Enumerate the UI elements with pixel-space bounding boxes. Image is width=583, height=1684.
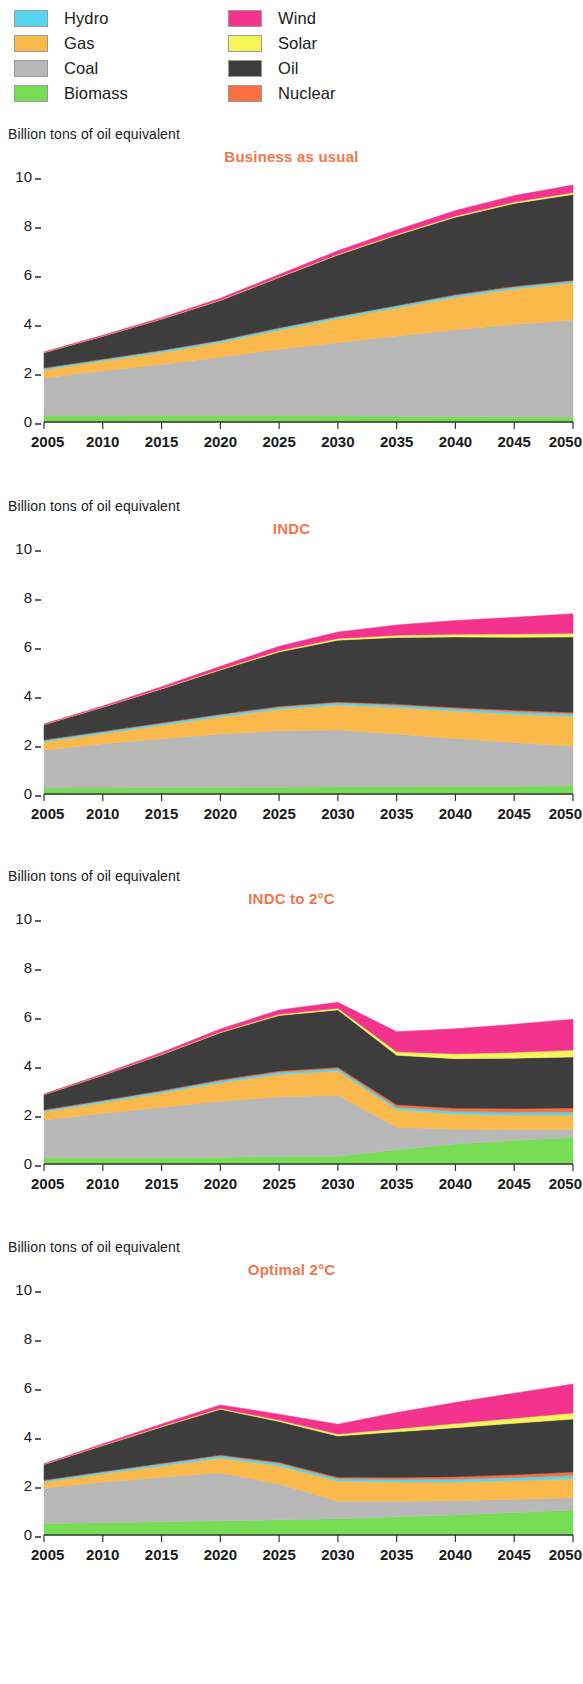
legend-item-coal[interactable]: Coal xyxy=(14,56,128,81)
x-tick-label-2050: 2050 xyxy=(549,433,582,450)
x-tick-label-2035: 2035 xyxy=(380,1546,413,1563)
legend-swatch-oil xyxy=(228,60,262,77)
y-tick-label-8: 8 xyxy=(24,1330,32,1347)
legend-swatch-solar xyxy=(228,35,262,52)
x-tick-label-2005: 2005 xyxy=(31,1546,64,1563)
chart-legend: HydroGasCoalBiomass WindSolarOilNuclear xyxy=(0,0,583,112)
legend-label-gas: Gas xyxy=(64,35,95,52)
panel-3: Billion tons of oil equivalent Optimal 2… xyxy=(0,1239,583,1584)
y-tick-label-0: 0 xyxy=(24,1526,32,1543)
x-tick-label-2035: 2035 xyxy=(380,805,413,822)
x-tick-label-2035: 2035 xyxy=(380,1175,413,1192)
legend-swatch-gas xyxy=(14,35,48,52)
panel-2: Billion tons of oil equivalent INDC to 2… xyxy=(0,868,583,1213)
legend-label-wind: Wind xyxy=(278,10,316,27)
x-tick-label-2015: 2015 xyxy=(145,805,178,822)
legend-label-nuclear: Nuclear xyxy=(278,85,336,102)
x-tick-label-2005: 2005 xyxy=(31,433,64,450)
legend-item-nuclear[interactable]: Nuclear xyxy=(228,81,336,106)
legend-item-wind[interactable]: Wind xyxy=(228,6,336,31)
legend-item-hydro[interactable]: Hydro xyxy=(14,6,128,31)
x-tick-label-2045: 2045 xyxy=(498,1175,531,1192)
legend-item-biomass[interactable]: Biomass xyxy=(14,81,128,106)
x-tick-label-2005: 2005 xyxy=(31,1175,64,1192)
panel-0: Billion tons of oil equivalent Business … xyxy=(0,126,583,471)
y-tick-label-0: 0 xyxy=(24,1155,32,1172)
y-tick-label-0: 0 xyxy=(24,413,32,430)
x-tick-label-2015: 2015 xyxy=(145,1175,178,1192)
y-tick-label-10: 10 xyxy=(15,168,32,185)
x-tick-label-2050: 2050 xyxy=(549,1546,582,1563)
x-tick-label-2030: 2030 xyxy=(321,805,354,822)
x-tick-label-2020: 2020 xyxy=(204,433,237,450)
x-tick-label-2020: 2020 xyxy=(204,1546,237,1563)
chart-svg-1: 0246810200520102015202020252030203520402… xyxy=(0,498,583,843)
y-tick-label-4: 4 xyxy=(24,315,32,332)
x-tick-label-2025: 2025 xyxy=(262,805,295,822)
y-tick-label-4: 4 xyxy=(24,1428,32,1445)
y-tick-label-8: 8 xyxy=(24,217,32,234)
x-tick-label-2040: 2040 xyxy=(439,805,472,822)
legend-item-gas[interactable]: Gas xyxy=(14,31,128,56)
x-tick-label-2030: 2030 xyxy=(321,433,354,450)
legend-swatch-nuclear xyxy=(228,85,262,102)
y-tick-label-10: 10 xyxy=(15,1281,32,1298)
legend-item-oil[interactable]: Oil xyxy=(228,56,336,81)
x-tick-label-2040: 2040 xyxy=(439,433,472,450)
y-tick-label-8: 8 xyxy=(24,589,32,606)
legend-label-hydro: Hydro xyxy=(64,10,109,27)
legend-swatch-biomass xyxy=(14,85,48,102)
x-tick-label-2020: 2020 xyxy=(204,805,237,822)
y-tick-label-2: 2 xyxy=(24,1106,32,1123)
x-tick-label-2010: 2010 xyxy=(86,1175,119,1192)
y-tick-label-6: 6 xyxy=(24,1379,32,1396)
legend-label-oil: Oil xyxy=(278,60,298,77)
y-tick-label-2: 2 xyxy=(24,364,32,381)
x-tick-label-2015: 2015 xyxy=(145,433,178,450)
x-tick-label-2045: 2045 xyxy=(498,805,531,822)
x-tick-label-2040: 2040 xyxy=(439,1546,472,1563)
x-tick-label-2025: 2025 xyxy=(262,433,295,450)
x-tick-label-2025: 2025 xyxy=(262,1546,295,1563)
x-tick-label-2015: 2015 xyxy=(145,1546,178,1563)
x-tick-label-2030: 2030 xyxy=(321,1175,354,1192)
x-tick-label-2030: 2030 xyxy=(321,1546,354,1563)
x-tick-label-2045: 2045 xyxy=(498,433,531,450)
legend-item-solar[interactable]: Solar xyxy=(228,31,336,56)
x-tick-label-2035: 2035 xyxy=(380,433,413,450)
legend-swatch-wind xyxy=(228,10,262,27)
x-tick-label-2050: 2050 xyxy=(549,805,582,822)
y-tick-label-6: 6 xyxy=(24,638,32,655)
panel-1: Billion tons of oil equivalent INDC 0246… xyxy=(0,498,583,843)
legend-column-left: HydroGasCoalBiomass xyxy=(14,6,128,106)
figure-root: HydroGasCoalBiomass WindSolarOilNuclear … xyxy=(0,0,583,1684)
y-tick-label-2: 2 xyxy=(24,1477,32,1494)
y-tick-label-10: 10 xyxy=(15,540,32,557)
legend-label-solar: Solar xyxy=(278,35,317,52)
x-tick-label-2045: 2045 xyxy=(498,1546,531,1563)
y-tick-label-4: 4 xyxy=(24,687,32,704)
x-tick-label-2025: 2025 xyxy=(262,1175,295,1192)
y-tick-label-0: 0 xyxy=(24,785,32,802)
x-tick-label-2040: 2040 xyxy=(439,1175,472,1192)
x-tick-label-2005: 2005 xyxy=(31,805,64,822)
x-tick-label-2010: 2010 xyxy=(86,805,119,822)
legend-label-coal: Coal xyxy=(64,60,98,77)
x-tick-label-2010: 2010 xyxy=(86,433,119,450)
chart-svg-3: 0246810200520102015202020252030203520402… xyxy=(0,1239,583,1584)
x-tick-label-2020: 2020 xyxy=(204,1175,237,1192)
y-tick-label-10: 10 xyxy=(15,910,32,927)
legend-swatch-hydro xyxy=(14,10,48,27)
x-tick-label-2010: 2010 xyxy=(86,1546,119,1563)
legend-label-biomass: Biomass xyxy=(64,85,128,102)
y-tick-label-6: 6 xyxy=(24,266,32,283)
x-tick-label-2050: 2050 xyxy=(549,1175,582,1192)
y-tick-label-8: 8 xyxy=(24,959,32,976)
y-tick-label-4: 4 xyxy=(24,1057,32,1074)
chart-svg-2: 0246810200520102015202020252030203520402… xyxy=(0,868,583,1213)
y-tick-label-6: 6 xyxy=(24,1008,32,1025)
chart-svg-0: 0246810200520102015202020252030203520402… xyxy=(0,126,583,471)
legend-swatch-coal xyxy=(14,60,48,77)
legend-column-right: WindSolarOilNuclear xyxy=(228,6,336,106)
y-tick-label-2: 2 xyxy=(24,736,32,753)
